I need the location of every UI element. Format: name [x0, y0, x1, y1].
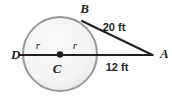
- point-label-b: B: [79, 1, 89, 16]
- center-point-dot: [57, 51, 63, 57]
- radius-label-left: r: [36, 39, 41, 51]
- point-label-c: C: [53, 61, 62, 76]
- point-label-a: A: [159, 46, 169, 61]
- figure-canvas: B A D C r r 20 ft 12 ft: [0, 0, 172, 102]
- measurement-label-da: 12 ft: [106, 61, 129, 73]
- radius-label-right: r: [73, 39, 78, 51]
- measurement-label-ba: 20 ft: [103, 21, 126, 33]
- point-label-d: D: [10, 47, 21, 62]
- geometry-figure: B A D C r r 20 ft 12 ft: [0, 0, 172, 102]
